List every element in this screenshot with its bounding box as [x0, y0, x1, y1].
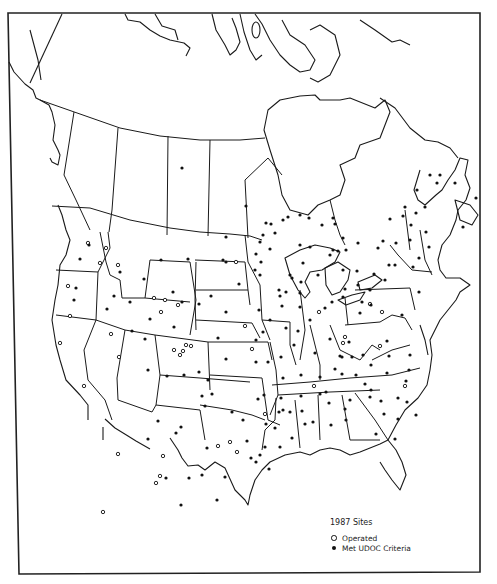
site-marker-met-criteria [318, 375, 321, 378]
site-marker-met-criteria [368, 288, 371, 291]
site-marker-met-criteria [427, 245, 430, 248]
site-marker-met-criteria [182, 373, 185, 376]
site-marker-met-criteria [409, 223, 412, 226]
site-marker-met-criteria [156, 419, 159, 422]
site-marker-met-criteria [356, 283, 359, 286]
site-marker-met-criteria [237, 282, 240, 285]
site-marker-met-criteria [417, 290, 420, 293]
site-marker-met-criteria [343, 287, 346, 290]
site-marker-met-criteria [290, 436, 293, 439]
site-marker-met-criteria [165, 374, 168, 377]
site-marker-met-criteria [254, 338, 257, 341]
legend-title: 1987 Sites [330, 518, 475, 527]
site-marker-met-criteria [254, 460, 257, 463]
site-marker-met-criteria [396, 396, 399, 399]
site-marker-met-criteria [74, 286, 77, 289]
legend-label-met-criteria: Met UDOC Criteria [342, 544, 411, 553]
site-marker-operated [98, 261, 101, 264]
site-marker-operated [109, 332, 112, 335]
site-marker-met-criteria [180, 300, 183, 303]
site-marker-met-criteria [223, 475, 226, 478]
site-marker-met-criteria [249, 456, 252, 459]
site-marker-met-criteria [244, 204, 247, 207]
site-marker-operated [163, 298, 166, 301]
map-legend: 1987 Sites Operated Met UDOC Criteria [330, 518, 475, 553]
site-marker-met-criteria [143, 337, 146, 340]
site-marker-met-criteria [355, 269, 358, 272]
legend-label-operated: Operated [342, 534, 377, 543]
site-marker-met-criteria [224, 310, 227, 313]
site-marker-met-criteria [360, 300, 363, 303]
site-marker-met-criteria [396, 417, 399, 420]
site-marker-met-criteria [311, 420, 314, 423]
site-marker-met-criteria [331, 216, 334, 219]
site-marker-operated [317, 310, 320, 313]
site-marker-met-criteria [344, 248, 347, 251]
site-marker-met-criteria [361, 353, 364, 356]
site-marker-met-criteria [216, 336, 219, 339]
site-marker-operated [235, 450, 238, 453]
site-marker-met-criteria [363, 382, 366, 385]
site-marker-met-criteria [130, 329, 133, 332]
site-marker-met-criteria [258, 273, 261, 276]
site-marker-operated [178, 353, 181, 356]
site-marker-met-criteria [164, 476, 167, 479]
site-marker-met-criteria [328, 337, 331, 340]
site-marker-operated [158, 474, 161, 477]
site-marker-met-criteria [372, 272, 375, 275]
site-marker-met-criteria [340, 372, 343, 375]
site-marker-met-criteria [388, 217, 391, 220]
site-marker-met-criteria [414, 211, 417, 214]
site-marker-met-criteria [186, 257, 189, 260]
site-marker-met-criteria [316, 273, 319, 276]
site-marker-met-criteria [299, 394, 302, 397]
site-marker-met-criteria [411, 265, 414, 268]
site-marker-met-criteria [341, 236, 344, 239]
site-marker-met-criteria [298, 291, 301, 294]
site-marker-met-criteria [241, 418, 244, 421]
site-marker-met-criteria [224, 357, 227, 360]
site-marker-met-criteria [400, 313, 403, 316]
site-marker-met-criteria [369, 388, 372, 391]
site-marker-met-criteria [323, 306, 326, 309]
site-marker-met-criteria [308, 318, 311, 321]
site-marker-met-criteria [344, 418, 347, 421]
site-marker-met-criteria [230, 410, 233, 413]
site-marker-met-criteria [200, 473, 203, 476]
site-marker-met-criteria [356, 241, 359, 244]
site-marker-met-criteria [264, 422, 267, 425]
site-marker-met-criteria [281, 376, 284, 379]
site-marker-met-criteria [197, 302, 200, 305]
site-marker-met-criteria [292, 343, 295, 346]
legend-item-operated: Operated [330, 533, 475, 543]
site-marker-met-criteria [256, 397, 259, 400]
sites-met-criteria-layer [72, 166, 477, 506]
site-marker-met-criteria [308, 245, 311, 248]
site-marker-met-criteria [303, 422, 306, 425]
site-marker-operated [161, 454, 164, 457]
site-marker-met-criteria [159, 258, 162, 261]
site-marker-operated [263, 412, 266, 415]
site-marker-met-criteria [383, 278, 386, 281]
site-marker-met-criteria [118, 270, 121, 273]
site-marker-met-criteria [408, 353, 411, 356]
site-marker-met-criteria [320, 223, 323, 226]
site-marker-operated [378, 344, 381, 347]
site-marker-met-criteria [263, 445, 266, 448]
site-marker-met-criteria [257, 308, 260, 311]
site-marker-operated [152, 296, 155, 299]
site-marker-met-criteria [299, 373, 302, 376]
site-marker-met-criteria [340, 355, 343, 358]
site-marker-met-criteria [374, 432, 377, 435]
site-marker-met-criteria [261, 330, 264, 333]
site-marker-met-criteria [87, 243, 90, 246]
site-marker-met-criteria [313, 351, 316, 354]
site-marker-met-criteria [408, 238, 411, 241]
site-marker-operated [58, 341, 61, 344]
site-marker-met-criteria [273, 426, 276, 429]
site-marker-operated [234, 260, 237, 263]
site-marker-met-criteria [415, 188, 418, 191]
site-marker-operated [403, 384, 406, 387]
site-marker-met-criteria [290, 276, 293, 279]
site-marker-met-criteria [341, 295, 344, 298]
